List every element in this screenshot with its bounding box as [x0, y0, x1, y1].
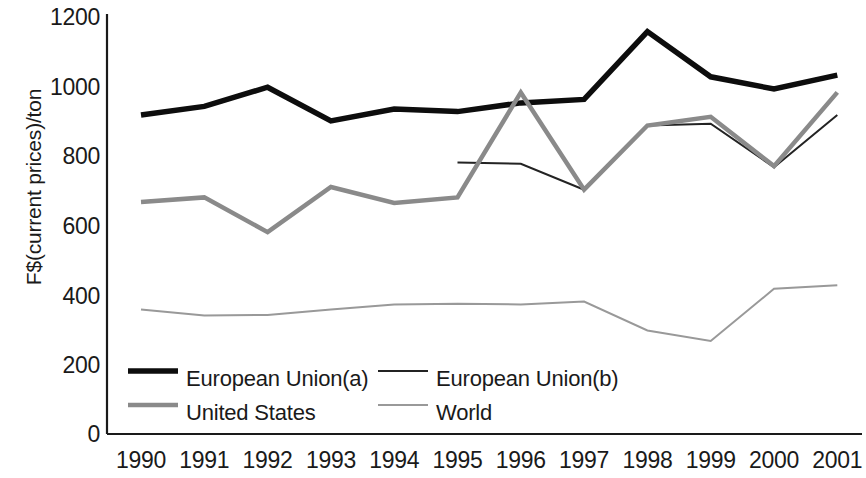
x-tick-label: 1996: [496, 447, 546, 474]
x-tick-label: 1992: [243, 447, 293, 474]
series-line-european-union-a: [141, 32, 837, 121]
x-tick-label: 1999: [686, 447, 736, 474]
x-tick-label: 2000: [749, 447, 799, 474]
x-tick-label: 1993: [306, 447, 356, 474]
x-tick-label: 1997: [559, 447, 609, 474]
x-tick-label: 1998: [622, 447, 672, 474]
legend-label-european-union-a: European Union(a): [186, 366, 369, 392]
series-layer: [141, 32, 837, 341]
legend-label-united-states: United States: [186, 400, 315, 426]
legend-label-european-union-b: European Union(b): [436, 366, 619, 392]
x-tick-label: 1994: [369, 447, 419, 474]
x-tick-label: 1990: [116, 447, 166, 474]
x-tick-label: 1991: [179, 447, 229, 474]
line-chart: F$(current prices)/ton 1200 1000 800 600…: [0, 0, 866, 478]
x-tick-label: 2001: [812, 447, 862, 474]
plot-area: [0, 0, 866, 478]
series-line-world: [141, 285, 837, 341]
legend-label-world: World: [436, 400, 492, 426]
x-tick-label: 1995: [433, 447, 483, 474]
